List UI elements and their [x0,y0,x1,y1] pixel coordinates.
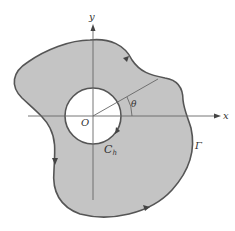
y-axis-arrow-icon [91,24,96,31]
diagram-canvas: y x O θ Ch Γ [0,0,235,231]
angle-label: θ [131,99,137,109]
x-axis-label: x [223,110,229,121]
origin-label: O [81,117,89,128]
outer-contour-label: Γ [194,140,203,151]
y-axis-label: y [88,11,95,22]
x-axis-arrow-icon [214,114,221,119]
contour-diagram: y x O θ Ch Γ [0,0,235,231]
